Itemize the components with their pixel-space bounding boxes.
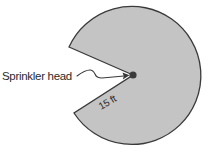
leader-arrow [77,70,124,78]
sprinkler-head-dot [129,71,136,78]
sprinkler-diagram: Sprinkler head 15 ft [0,0,211,163]
sprinkler-head-label: Sprinkler head [2,70,72,82]
